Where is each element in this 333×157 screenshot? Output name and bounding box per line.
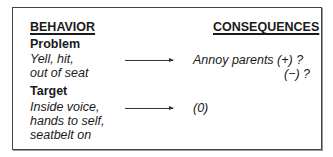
right-arrow-icon [125, 60, 173, 61]
target-behavior-line-3: seatbelt on [30, 128, 91, 142]
target-consequence-line-1: (0) [193, 101, 208, 115]
consequences-header: CONSEQUENCES [213, 20, 319, 34]
problem-label: Problem [30, 37, 80, 51]
target-behavior-line-2: hands to self, [30, 114, 104, 128]
problem-consequence-line-1: Annoy parents (+) ? [193, 53, 303, 67]
right-arrow-icon [125, 108, 173, 109]
problem-behavior-line-2: out of seat [30, 66, 88, 80]
problem-behavior-line-1: Yell, hit, [30, 52, 74, 66]
target-label: Target [30, 84, 67, 98]
problem-consequence-line-2: (−) ? [284, 67, 310, 81]
behavior-header: BEHAVIOR [30, 20, 95, 34]
target-behavior-line-1: Inside voice, [30, 100, 99, 114]
